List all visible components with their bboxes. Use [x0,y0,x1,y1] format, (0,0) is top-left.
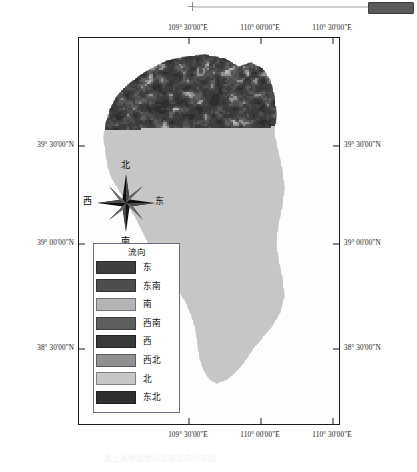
compass-north-label: 北 [121,158,130,171]
latitude-label-right-1: 39° 00'00"N [344,239,416,247]
scrollbar-thumb[interactable] [368,2,414,14]
legend-swatch [96,335,136,348]
legend-swatch [96,354,136,367]
legend-swatch [96,298,136,311]
longitude-label-top-2: 110° 30'00"E [299,24,365,32]
legend-item-label: 西北 [143,356,161,365]
legend-item-label: 东北 [143,393,161,402]
compass-east-label: 东 [155,194,164,207]
legend-swatch [96,317,136,330]
legend-item-label: 西 [143,337,152,346]
map-page: 109° 30'00"E 110° 00'00"E 110° 30'00"E 1… [0,0,417,472]
latitude-label-right-2: 38° 30'00"N [344,344,416,352]
legend-item[interactable]: 西北 [94,351,179,370]
compass-west-label: 西 [83,194,92,207]
latitude-label-left-1: 39° 00'00"N [4,239,74,247]
longitude-label-bottom-0: 109° 30'00"E [155,431,221,439]
longitude-label-top-0: 109° 30'00"E [155,24,221,32]
legend-item[interactable]: 西南 [94,314,179,333]
legend-swatch [96,372,136,385]
legend-item[interactable]: 西 [94,332,179,351]
legend-swatch [96,261,136,274]
horizontal-scrollbar[interactable] [186,2,414,13]
legend-swatch [96,279,136,292]
legend-title: 流向 [94,245,179,257]
latitude-label-right-0: 39° 30'00"N [344,141,416,149]
legend-item-label: 西南 [143,319,161,328]
legend-item-label: 东南 [143,282,161,291]
longitude-label-bottom-1: 110° 00'00"E [227,431,293,439]
legend-item-label: 南 [143,300,152,309]
latitude-label-left-2: 38° 30'00"N [4,344,74,352]
legend-item[interactable]: 东南 [94,277,179,296]
latitude-label-left-0: 39° 30'00"N [4,141,74,149]
figure-caption-ghost: 黄土高原窟野河流域流向分布图 [104,452,334,464]
legend-swatch [96,391,136,404]
legend-item-label: 东 [143,263,152,272]
compass-rose: 北 南 西 东 [83,158,169,250]
map-legend: 流向 东东南南西南西西北北东北 [93,243,180,413]
legend-item[interactable]: 南 [94,295,179,314]
legend-entries: 东东南南西南西西北北东北 [94,258,179,410]
longitude-label-bottom-2: 110° 30'00"E [299,431,365,439]
longitude-label-top-1: 110° 00'00"E [227,24,293,32]
legend-item[interactable]: 东北 [94,388,179,407]
legend-item-label: 北 [143,375,152,384]
legend-item[interactable]: 东 [94,258,179,277]
legend-item[interactable]: 北 [94,370,179,389]
compass-rose-icon [96,173,156,233]
